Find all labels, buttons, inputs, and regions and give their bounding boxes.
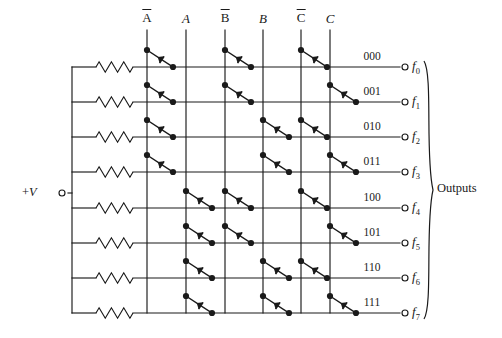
output-row-000 <box>72 62 408 72</box>
diode-cathode-dot-a-111 <box>209 310 215 316</box>
diode-anode-dot-not-b-001 <box>222 82 228 88</box>
row-code-000: 000 <box>363 51 380 63</box>
diode-cathode-dot-not-c-010 <box>324 134 330 140</box>
output-row-100 <box>72 203 408 213</box>
diode-cathode-dot-not-c-000 <box>324 64 330 70</box>
output-terminal-011 <box>402 169 408 175</box>
output-label-f0: f0 <box>412 59 420 75</box>
diode-cathode-dot-not-b-101 <box>248 240 254 246</box>
diode-anode-dot-c-001 <box>327 82 333 88</box>
diode-anode-dot-b-011 <box>260 152 266 158</box>
diode-cathode-dot-not-c-100 <box>324 205 330 211</box>
diode-cathode-dot-not-a-001 <box>170 99 176 105</box>
output-label-f4: f4 <box>412 200 420 216</box>
diode-anode-dot-b-010 <box>260 117 266 123</box>
diode-cathode-dot-not-b-001 <box>248 99 254 105</box>
supply-label: +V <box>22 186 37 199</box>
output-terminal-001 <box>402 99 408 105</box>
diode-anode-dot-a-101 <box>183 223 189 229</box>
diode-cathode-dot-a-101 <box>209 240 215 246</box>
diode-anode-dot-not-c-010 <box>298 117 304 123</box>
diode-anode-dot-not-a-000 <box>144 47 150 53</box>
output-label-f3: f3 <box>412 164 420 180</box>
row-code-100: 100 <box>363 192 380 204</box>
diode-anode-dot-not-b-000 <box>222 47 228 53</box>
resistor-111 <box>96 308 133 318</box>
outputs-group-label: Outputs <box>437 182 477 195</box>
outputs-brace <box>424 61 433 319</box>
diode-anode-dot-c-011 <box>327 152 333 158</box>
row-code-010: 010 <box>363 121 380 133</box>
output-terminal-100 <box>402 205 408 211</box>
column-header-not-a: A <box>142 9 151 24</box>
resistor-001 <box>96 97 133 107</box>
row-code-011: 011 <box>364 156 381 168</box>
resistor-101 <box>96 238 133 248</box>
column-header-a: A <box>182 12 190 25</box>
diode-anode-dot-not-b-100 <box>222 188 228 194</box>
output-terminal-000 <box>402 64 408 70</box>
output-label-f6: f6 <box>412 270 420 286</box>
resistor-011 <box>96 167 133 177</box>
column-header-not-b: B <box>221 9 230 24</box>
diode-cathode-dot-not-a-010 <box>170 134 176 140</box>
circuit-canvas <box>0 0 502 338</box>
diode-anode-dot-a-110 <box>183 258 189 264</box>
resistor-010 <box>96 132 133 142</box>
diode-cathode-dot-a-100 <box>209 205 215 211</box>
diode-cathode-dot-c-111 <box>353 310 359 316</box>
circuit-diagram: AABBCC+V000f0001f1010f2011f3100f4101f511… <box>0 0 502 338</box>
column-header-b: B <box>259 12 267 25</box>
diode-cathode-dot-c-101 <box>353 240 359 246</box>
diode-cathode-dot-not-a-000 <box>170 64 176 70</box>
row-code-111: 111 <box>364 297 380 309</box>
output-label-f2: f2 <box>412 129 420 145</box>
diode-anode-dot-not-c-100 <box>298 188 304 194</box>
diode-anode-dot-not-c-110 <box>298 258 304 264</box>
diode-cathode-dot-a-110 <box>209 275 215 281</box>
diode-cathode-dot-b-111 <box>286 310 292 316</box>
row-code-110: 110 <box>364 262 381 274</box>
diode-anode-dot-b-110 <box>260 258 266 264</box>
supply-terminal <box>59 190 65 196</box>
diode-anode-dot-not-a-011 <box>144 152 150 158</box>
diode-cathode-dot-b-110 <box>286 275 292 281</box>
diode-anode-dot-c-111 <box>327 293 333 299</box>
output-terminal-101 <box>402 240 408 246</box>
diode-anode-dot-a-111 <box>183 293 189 299</box>
diode-anode-dot-b-111 <box>260 293 266 299</box>
resistor-000 <box>96 62 133 72</box>
diode-cathode-dot-not-a-011 <box>170 169 176 175</box>
diode-anode-dot-a-100 <box>183 188 189 194</box>
output-row-010 <box>72 132 408 142</box>
output-terminal-010 <box>402 134 408 140</box>
output-label-f5: f5 <box>412 235 420 251</box>
row-code-101: 101 <box>363 227 380 239</box>
diode-anode-dot-not-b-101 <box>222 223 228 229</box>
output-terminal-111 <box>402 310 408 316</box>
column-header-not-c: C <box>297 9 306 24</box>
diode-cathode-dot-c-001 <box>353 99 359 105</box>
diode-cathode-dot-not-b-100 <box>248 205 254 211</box>
output-label-f1: f1 <box>412 94 420 110</box>
diode-anode-dot-not-c-000 <box>298 47 304 53</box>
column-header-c: C <box>326 12 335 25</box>
diode-anode-dot-c-101 <box>327 223 333 229</box>
output-row-110 <box>72 273 408 283</box>
resistor-110 <box>96 273 133 283</box>
diode-cathode-dot-c-011 <box>353 169 359 175</box>
row-code-001: 001 <box>363 86 380 98</box>
diode-anode-dot-not-a-001 <box>144 82 150 88</box>
diode-anode-dot-not-a-010 <box>144 117 150 123</box>
diode-cathode-dot-b-011 <box>286 169 292 175</box>
diode-cathode-dot-b-010 <box>286 134 292 140</box>
resistor-100 <box>96 203 133 213</box>
diode-cathode-dot-not-c-110 <box>324 275 330 281</box>
output-label-f7: f7 <box>412 305 420 321</box>
output-terminal-110 <box>402 275 408 281</box>
diode-cathode-dot-not-b-000 <box>248 64 254 70</box>
